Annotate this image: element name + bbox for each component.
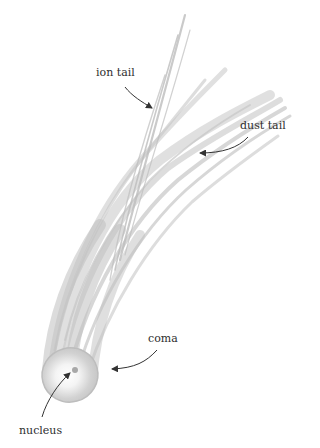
nucleus-dot bbox=[72, 367, 78, 373]
nucleus-label: nucleus bbox=[19, 425, 62, 436]
coma-arrow bbox=[112, 350, 157, 369]
dust-tail-label: dust tail bbox=[240, 120, 286, 131]
coma-label: coma bbox=[148, 333, 178, 344]
ion-tail-label: ion tail bbox=[96, 67, 135, 78]
comet-body bbox=[52, 70, 290, 372]
comet-diagram: ion tail dust tail coma nucleus bbox=[0, 0, 320, 448]
comet-illustration bbox=[0, 0, 320, 448]
ion-tail-arrow bbox=[125, 87, 152, 108]
